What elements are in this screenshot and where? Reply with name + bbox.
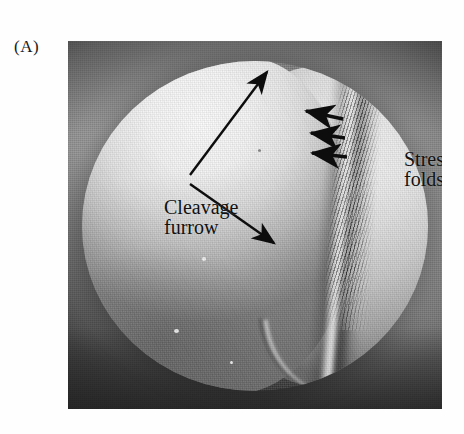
- cleavage-furrow-label-line1: Cleavage: [164, 196, 238, 218]
- figure-root: (A): [0, 0, 464, 434]
- annotation-vectors: [68, 41, 442, 409]
- stress-folds-label: Stress folds: [404, 149, 442, 190]
- stress-folds-label-line1: Stress: [404, 148, 442, 170]
- cleavage-furrow-leader-upper: [190, 72, 267, 175]
- stress-folds-arrow-3: [312, 153, 347, 157]
- panel-label: (A): [14, 38, 39, 55]
- stress-folds-arrow-1: [306, 111, 343, 119]
- stress-folds-label-line2: folds: [404, 169, 442, 189]
- cleavage-furrow-label: Cleavage furrow: [164, 197, 238, 238]
- micrograph-image: Cleavage furrow Stress folds: [68, 41, 442, 409]
- stress-folds-arrow-2: [311, 133, 345, 138]
- annotation-overlay: Cleavage furrow Stress folds: [68, 41, 442, 409]
- cleavage-furrow-label-line2: furrow: [164, 217, 238, 237]
